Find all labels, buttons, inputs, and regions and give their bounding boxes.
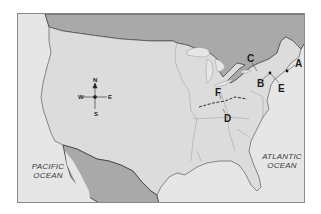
map-frame: N S E W PACIFIC OCEAN ATLANTIC OCEAN A B… [17, 13, 305, 203]
marker-e: E [278, 84, 285, 94]
marker-b: B [257, 79, 264, 89]
atlantic-ocean-label: ATLANTIC OCEAN [254, 152, 305, 170]
pacific-ocean-label: PACIFIC OCEAN [18, 162, 78, 180]
marker-c: C [247, 54, 254, 64]
marker-a: A [295, 59, 302, 69]
compass-north-label: N [93, 77, 97, 83]
compass-east-label: E [108, 94, 112, 100]
compass-west-label: W [78, 94, 84, 100]
marker-f: F [215, 88, 221, 98]
compass-south-label: S [94, 111, 98, 117]
marker-d: D [224, 114, 231, 124]
